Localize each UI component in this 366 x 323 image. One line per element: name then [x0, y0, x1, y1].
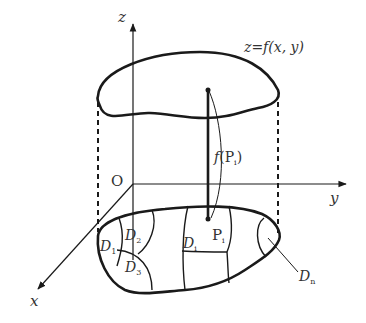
subregion-d3-label: D3 — [124, 259, 141, 277]
subregion-di-label: Di — [182, 235, 197, 253]
point-pi — [206, 217, 211, 222]
origin-label: O — [111, 172, 123, 190]
subregion-dn-label: Dn — [298, 268, 315, 286]
y-axis-label: y — [329, 189, 339, 207]
height-label: f(Pi) — [213, 149, 242, 167]
double-integral-diagram: z y x O z=f(x, y) f(Pi) Pi D1 D2 D3 Di D… — [0, 0, 366, 323]
dn-leader — [268, 238, 298, 272]
z-axis-label: z — [117, 8, 126, 26]
x-axis-label: x — [30, 292, 39, 310]
subregion-d2-label: D2 — [124, 227, 141, 245]
x-axis — [38, 184, 133, 289]
subregion-d1-label: D1 — [99, 238, 116, 256]
surface-curve — [97, 52, 278, 118]
surface-equation-label: z=f(x, y) — [243, 39, 304, 55]
point-pi-label: Pi — [212, 226, 225, 245]
